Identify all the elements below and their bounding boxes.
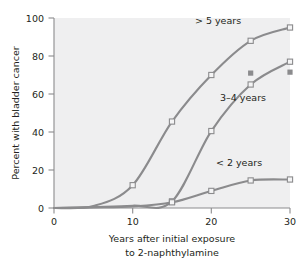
data-point-marker [130,183,135,188]
x-axis-title-line2: to 2-naphthylamine [125,247,219,258]
y-axis-title: Percent with bladder cancer [10,46,21,179]
data-point-marker [248,82,253,87]
filled-square-point [287,70,292,75]
y-axis-ticks [49,18,55,208]
y-tick-label-20: 20 [32,165,44,176]
y-tick-label-60: 60 [32,89,44,100]
x-tick-label-0: 0 [51,216,57,227]
data-point-marker [169,119,174,124]
data-point-marker [248,178,253,183]
data-point-marker [209,128,214,133]
x-tick-label-10: 10 [127,216,139,227]
data-point-marker [169,200,174,205]
series-label-gt5: > 5 years [195,15,241,26]
y-tick-label-100: 100 [26,13,44,24]
y-tick-label-0: 0 [38,203,44,214]
x-tick-label-20: 20 [205,216,217,227]
x-axis-title-line1: Years after initial exposure [108,233,236,244]
data-point-marker [287,177,292,182]
data-point-marker [287,25,292,30]
series-label-3to4: 3–4 years [220,92,266,103]
x-tick-label-30: 30 [284,216,296,227]
data-point-marker [287,59,292,64]
data-point-marker [209,72,214,77]
y-tick-label-40: 40 [32,127,44,138]
series-label-lt2: < 2 years [216,157,262,168]
data-point-marker [248,38,253,43]
y-tick-label-80: 80 [32,51,44,62]
filled-square-point [248,71,253,76]
x-axis-ticks [54,208,290,214]
chart-figure: 0 20 40 60 80 100 0 10 20 30 Percent wit… [0,0,303,265]
bladder-cancer-line-chart: 0 20 40 60 80 100 0 10 20 30 Percent wit… [0,0,303,265]
data-point-marker [209,188,214,193]
